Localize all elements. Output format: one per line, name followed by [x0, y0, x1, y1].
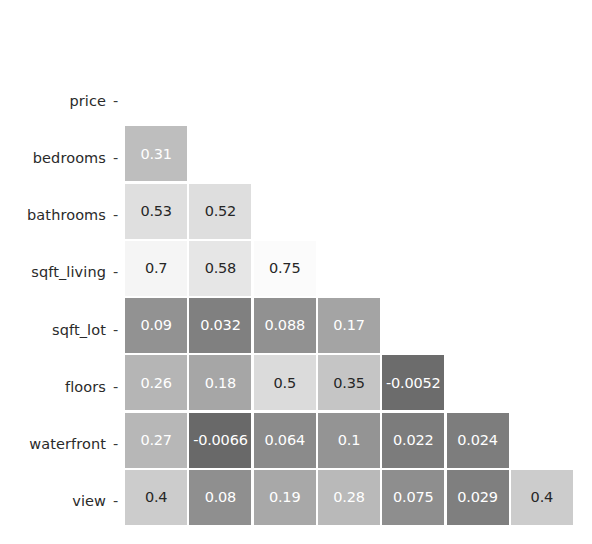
heatmap-cell: 0.4: [511, 470, 573, 525]
heatmap-cell: 0.4: [125, 470, 187, 525]
heatmap-cell: 0.75: [254, 241, 316, 296]
y-tick-sqft-living: sqft_living-: [0, 240, 124, 305]
heatmap-cell-value: 0.17: [333, 318, 365, 333]
heatmap-cell-value: 0.4: [531, 490, 553, 505]
heatmap-cell: 0.26: [125, 355, 187, 410]
y-tick-waterfront: waterfront-: [0, 412, 124, 477]
heatmap-cell-value: 0.28: [333, 490, 365, 505]
heatmap-cell: 0.1: [318, 413, 380, 468]
y-tick-bedrooms: bedrooms-: [0, 125, 124, 190]
heatmap-cell-value: 0.088: [264, 318, 305, 333]
y-tick-label: view: [72, 493, 106, 509]
heatmap-cell: -0.0052: [382, 355, 444, 410]
y-axis-tick-labels: price-bedrooms-bathrooms-sqft_living-sqf…: [0, 8, 124, 536]
heatmap-cell: 0.52: [189, 184, 251, 239]
y-tick-mark-icon: -: [111, 150, 120, 166]
heatmap-cell-value: 0.52: [205, 204, 237, 219]
y-tick-label: bathrooms: [27, 207, 106, 223]
y-tick-mark-icon: -: [111, 264, 120, 280]
y-tick-label: bedrooms: [33, 150, 106, 166]
heatmap-cell-value: 0.26: [140, 376, 172, 391]
heatmap-cell-value: 0.1: [338, 433, 360, 448]
heatmap-cell: 0.27: [125, 413, 187, 468]
heatmap-cell-value: -0.0052: [386, 376, 441, 391]
heatmap-cell-value: 0.75: [269, 261, 301, 276]
heatmap-cell-value: 0.064: [264, 433, 305, 448]
heatmap-cell-value: 0.09: [140, 318, 172, 333]
heatmap-cell: 0.18: [189, 355, 251, 410]
heatmap-cell: 0.029: [447, 470, 509, 525]
heatmap-cell: 0.075: [382, 470, 444, 525]
heatmap-cell: 0.31: [125, 126, 187, 181]
heatmap-cell-value: 0.08: [205, 490, 237, 505]
heatmap-cell-value: -0.0066: [193, 433, 248, 448]
heatmap-cell: 0.09: [125, 298, 187, 353]
y-tick-floors: floors-: [0, 354, 124, 419]
heatmap-cell-value: 0.024: [457, 433, 498, 448]
y-tick-bathrooms: bathrooms-: [0, 183, 124, 248]
heatmap-cell: 0.5: [254, 355, 316, 410]
heatmap-cell-value: 0.029: [457, 490, 498, 505]
heatmap-cell-value: 0.35: [333, 376, 365, 391]
y-tick-mark-icon: -: [111, 493, 120, 509]
correlation-heatmap-figure: price-bedrooms-bathrooms-sqft_living-sqf…: [0, 0, 592, 544]
y-tick-mark-icon: -: [111, 436, 120, 452]
heatmap-cell: 0.088: [254, 298, 316, 353]
heatmap-cell: 0.58: [189, 241, 251, 296]
heatmap-cell-value: 0.032: [200, 318, 241, 333]
y-tick-sqft-lot: sqft_lot-: [0, 297, 124, 362]
y-tick-label: floors: [65, 379, 106, 395]
heatmap-cell: 0.28: [318, 470, 380, 525]
heatmap-cell-value: 0.022: [393, 433, 434, 448]
y-tick-mark-icon: -: [111, 93, 120, 109]
y-tick-label: price: [69, 93, 106, 109]
heatmap-cell-value: 0.19: [269, 490, 301, 505]
heatmap-cell-value: 0.4: [145, 490, 167, 505]
heatmap-cell-value: 0.27: [140, 433, 172, 448]
y-tick-label: waterfront: [29, 436, 106, 452]
y-tick-mark-icon: -: [111, 379, 120, 395]
heatmap-cell-value: 0.58: [205, 261, 237, 276]
heatmap-cell: 0.19: [254, 470, 316, 525]
heatmap-cell-value: 0.5: [273, 376, 295, 391]
y-tick-view: view-: [0, 469, 124, 534]
heatmap-cell-value: 0.7: [145, 261, 167, 276]
heatmap-cell-value: 0.53: [140, 204, 172, 219]
y-tick-price: price-: [0, 68, 124, 133]
heatmap-cell: 0.024: [447, 413, 509, 468]
heatmap-cell: 0.17: [318, 298, 380, 353]
y-tick-mark-icon: -: [111, 207, 120, 223]
heatmap-cell-value: 0.18: [205, 376, 237, 391]
heatmap-cell-value: 0.31: [140, 147, 172, 162]
y-tick-label: sqft_lot: [52, 322, 106, 338]
heatmap-cell: 0.53: [125, 184, 187, 239]
heatmap-cell: 0.064: [254, 413, 316, 468]
heatmap-cell: 0.35: [318, 355, 380, 410]
heatmap-cell-value: 0.075: [393, 490, 434, 505]
heatmap-cell: 0.032: [189, 298, 251, 353]
heatmap-cell: 0.08: [189, 470, 251, 525]
heatmap-cell: 0.7: [125, 241, 187, 296]
y-tick-label: sqft_living: [31, 264, 106, 280]
heatmap-cell: 0.022: [382, 413, 444, 468]
heatmap-cell: -0.0066: [189, 413, 251, 468]
y-tick-mark-icon: -: [111, 322, 120, 338]
heatmap-grid: 0.310.530.520.70.580.750.090.0320.0880.1…: [124, 68, 574, 526]
